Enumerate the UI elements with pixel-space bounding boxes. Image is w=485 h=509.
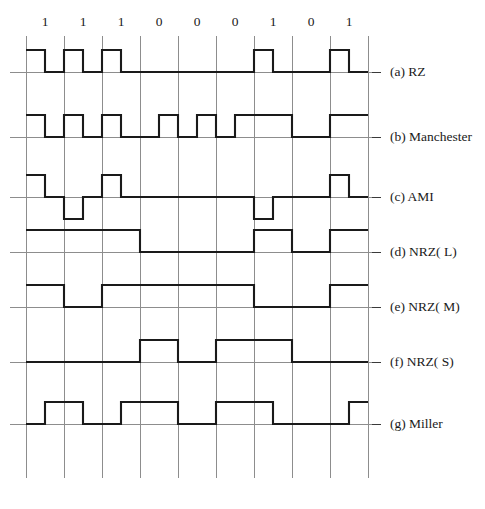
- waveform-layer: [26, 50, 368, 424]
- waveform-rz: [26, 50, 368, 72]
- row-label-rz: (a) RZ: [390, 64, 426, 79]
- waveform-nrz_l: [26, 230, 368, 252]
- bit-label: 1: [118, 14, 125, 29]
- waveform-nrz_s: [26, 340, 368, 362]
- baseline-layer: [10, 73, 381, 425]
- bit-label-layer: 111000101: [42, 14, 353, 29]
- bit-label: 0: [156, 14, 163, 29]
- row-label-ami: (c) AMI: [390, 189, 434, 204]
- waveform-canvas: 111000101 (a) RZ(b) Manchester(c) AMI(d)…: [0, 0, 485, 509]
- bit-label: 1: [346, 14, 353, 29]
- bit-label: 1: [80, 14, 87, 29]
- row-label-nrz_m: (e) NRZ( M): [390, 299, 460, 314]
- row-label-nrz_s: (f) NRZ( S): [390, 354, 454, 369]
- bit-label: 1: [270, 14, 277, 29]
- row-label-nrz_l: (d) NRZ( L): [390, 244, 457, 259]
- waveform-miller: [26, 402, 368, 424]
- waveform-figure: 111000101 (a) RZ(b) Manchester(c) AMI(d)…: [0, 0, 485, 509]
- bit-label: 0: [308, 14, 315, 29]
- row-label-layer: (a) RZ(b) Manchester(c) AMI(d) NRZ( L)(e…: [390, 64, 473, 431]
- waveform-nrz_m: [26, 285, 368, 307]
- row-label-miller: (g) Miller: [390, 416, 443, 431]
- bit-label: 0: [232, 14, 239, 29]
- row-label-manchester: (b) Manchester: [390, 129, 473, 144]
- bit-label: 0: [194, 14, 201, 29]
- grid-layer: [27, 36, 369, 478]
- bit-label: 1: [42, 14, 49, 29]
- waveform-manchester: [26, 115, 368, 137]
